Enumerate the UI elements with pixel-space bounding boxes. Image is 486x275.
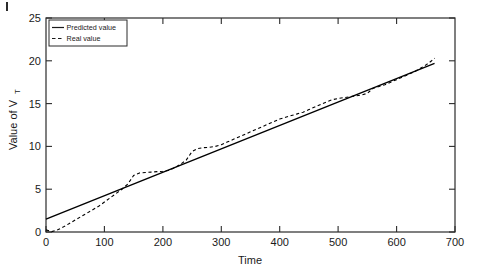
y-axis-title-main: Value of V bbox=[7, 99, 19, 150]
y-tick-label: 15 bbox=[29, 98, 41, 110]
y-tick-label: 20 bbox=[29, 55, 41, 67]
x-axis-title: Time bbox=[238, 254, 262, 266]
x-tick-label: 600 bbox=[387, 236, 405, 248]
legend-label-real: Real value bbox=[67, 34, 101, 43]
x-tick-label: 500 bbox=[329, 236, 347, 248]
y-tick-labels: 0 5 10 15 20 25 bbox=[29, 12, 41, 238]
x-tick-label: 400 bbox=[271, 236, 289, 248]
x-tick-label: 100 bbox=[95, 236, 113, 248]
x-tick-label: 300 bbox=[212, 236, 230, 248]
chart-svg: 0 5 10 15 20 25 0 100 200 300 400 500 60… bbox=[0, 0, 486, 275]
y-tick-label: 25 bbox=[29, 12, 41, 24]
series-predicted-value bbox=[46, 63, 435, 219]
series-real-value bbox=[46, 58, 435, 231]
y-axis-title-subscript: T bbox=[13, 89, 22, 94]
x-tick-label: 700 bbox=[446, 236, 464, 248]
legend-label-predicted: Predicted value bbox=[67, 23, 117, 32]
page-artifact-mark bbox=[6, 2, 8, 11]
y-tick-label: 10 bbox=[29, 140, 41, 152]
y-axis-title: Value of V T bbox=[7, 89, 22, 150]
y-tick-label: 0 bbox=[35, 226, 41, 238]
y-tick-label: 5 bbox=[35, 183, 41, 195]
x-tick-labels: 0 100 200 300 400 500 600 700 bbox=[43, 236, 464, 248]
x-tick-label: 200 bbox=[154, 236, 172, 248]
legend: Predicted value Real value bbox=[49, 20, 127, 46]
x-tick-label: 0 bbox=[43, 236, 49, 248]
chart-figure: 0 5 10 15 20 25 0 100 200 300 400 500 60… bbox=[0, 0, 486, 275]
